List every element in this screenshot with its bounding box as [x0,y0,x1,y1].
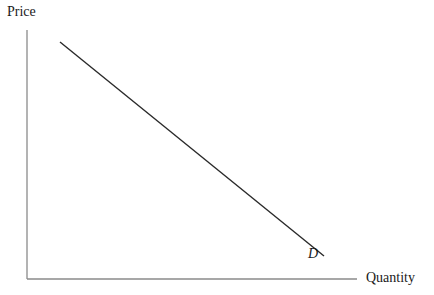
demand-curve-label: D [308,246,318,262]
demand-curve-chart: Price Quantity D [0,0,434,295]
demand-curve [60,42,324,256]
y-axis-label: Price [7,4,36,20]
x-axis-label: Quantity [366,270,415,286]
chart-canvas [0,0,434,295]
